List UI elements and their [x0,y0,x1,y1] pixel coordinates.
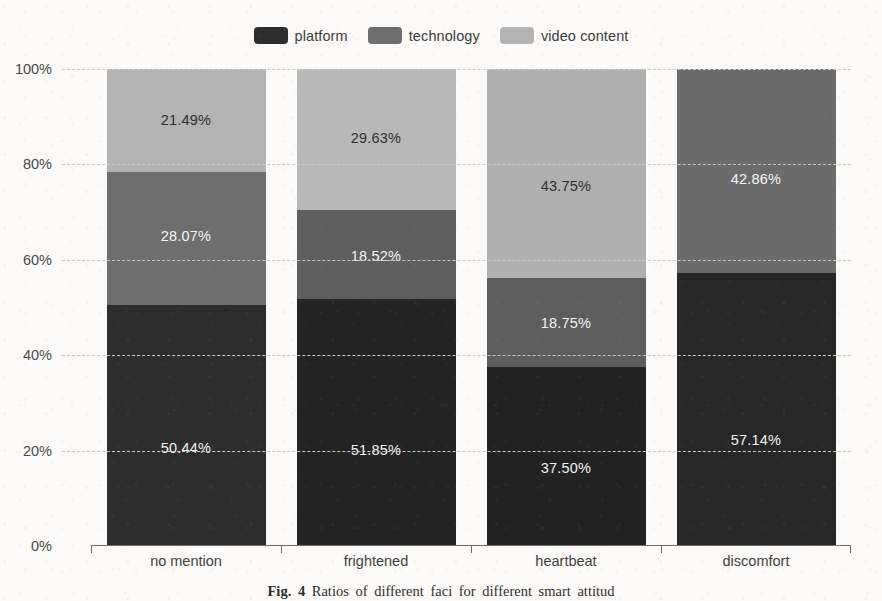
y-axis-tick-label-60: 60% [23,252,62,268]
x-axis-tick [91,546,92,553]
bar-segment-platform[interactable]: 57.14% [677,273,836,546]
x-axis-label-heartbeat: heartbeat [471,553,661,569]
bar-segment-label-technology: 42.86% [677,171,836,187]
plot-area: 21.49% 28.07% 50.44% 29.63% [91,69,851,546]
bar-segment-technology[interactable]: 18.75% [487,278,646,367]
legend-swatch-technology [368,27,402,44]
bar-segment-label-video-content: 29.63% [297,130,456,146]
bar-frightened[interactable]: 29.63% 18.52% 51.85% [297,69,456,546]
x-axis-tick [471,546,472,553]
legend-item-video-content[interactable]: video content [500,27,629,44]
legend-label-platform: platform [295,28,348,44]
x-axis-label-discomfort: discomfort [661,553,851,569]
bar-group: 21.49% 28.07% 50.44% 29.63% [91,69,851,546]
bar-segment-technology[interactable]: 42.86% [677,69,836,273]
y-axis-tick-label-100: 100% [15,61,62,77]
bar-segment-video-content[interactable]: 21.49% [107,69,266,172]
bar-segment-platform[interactable]: 51.85% [297,299,456,546]
x-axis-labels: no mention frightened heartbeat discomfo… [91,553,851,569]
bar-segment-video-content[interactable]: 29.63% [297,69,456,210]
bar-slot-frightened: 29.63% 18.52% 51.85% [281,69,471,546]
legend-swatch-video-content [500,27,534,44]
bar-slot-discomfort: 42.86% 57.14% [661,69,851,546]
x-axis-tick [850,546,851,553]
bar-segment-label-technology: 18.75% [487,315,646,331]
bar-no-mention[interactable]: 21.49% 28.07% 50.44% [107,69,266,546]
bar-segment-label-platform: 57.14% [677,432,836,448]
bar-slot-no-mention: 21.49% 28.07% 50.44% [91,69,281,546]
figure-caption-label: Fig. 4 [268,583,306,599]
bar-segment-platform[interactable]: 50.44% [107,305,266,546]
legend-label-technology: technology [409,28,480,44]
figure-caption-text: Ratios of different faci for different s… [312,583,615,599]
bar-segment-label-platform: 50.44% [107,440,266,456]
legend-item-technology[interactable]: technology [368,27,480,44]
plot-wrapper: 100% 80% 60% 40% 20% 0% [62,69,851,546]
bar-segment-technology[interactable]: 18.52% [297,210,456,298]
x-axis-tick [661,546,662,553]
legend-label-video-content: video content [541,28,629,44]
bar-segment-platform[interactable]: 37.50% [487,367,646,546]
bar-heartbeat[interactable]: 43.75% 18.75% 37.50% [487,69,646,546]
bar-segment-technology[interactable]: 28.07% [107,172,266,306]
x-axis-label-no-mention: no mention [91,553,281,569]
legend-item-platform[interactable]: platform [254,27,348,44]
bar-segment-label-technology: 28.07% [107,228,266,244]
bar-segment-label-technology: 18.52% [297,248,456,264]
y-axis-tick-label-40: 40% [23,347,62,363]
y-axis-tick-label-20: 20% [23,443,62,459]
legend-swatch-platform [254,27,288,44]
figure-stacked-bar-chart: platform technology video content 100% 8… [0,0,882,601]
bar-slot-heartbeat: 43.75% 18.75% 37.50% [471,69,661,546]
x-axis-line [91,545,851,546]
chart-legend: platform technology video content [0,27,882,44]
bar-segment-label-video-content: 21.49% [107,112,266,128]
bar-segment-video-content[interactable]: 43.75% [487,69,646,278]
y-axis-tick-label-0: 0% [31,538,62,554]
bar-segment-label-platform: 37.50% [487,460,646,476]
x-axis-label-frightened: frightened [281,553,471,569]
y-axis-tick-label-80: 80% [23,156,62,172]
bar-discomfort[interactable]: 42.86% 57.14% [677,69,836,546]
figure-caption: Fig. 4 Ratios of different faci for diff… [0,583,882,601]
bar-segment-label-video-content: 43.75% [487,178,646,194]
x-axis-tick [281,546,282,553]
